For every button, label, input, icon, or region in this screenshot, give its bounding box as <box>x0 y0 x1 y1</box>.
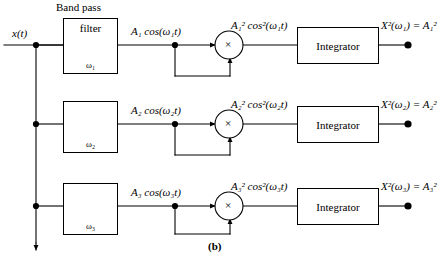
integrator-box-2[interactable]: Integrator <box>297 106 379 143</box>
output3-label: X²(ω₃) = A₃² <box>381 181 437 192</box>
bandpass-filter-box-3[interactable]: ω₃ <box>63 183 118 235</box>
multiplier-1-symbol: × <box>225 39 231 50</box>
integrator-box-3[interactable]: Integrator <box>297 188 379 225</box>
filter3-output-label: A₃ cos(ω₃t) <box>131 187 181 198</box>
tap-dot-row3 <box>172 203 178 209</box>
bandpass-filter-box-2[interactable]: ω₂ <box>63 101 118 153</box>
output-terminal-3 <box>404 202 411 209</box>
junction-dot-row3 <box>33 203 39 209</box>
multiplier-3-symbol: × <box>225 200 231 211</box>
junction-dot-row1 <box>33 42 39 48</box>
junction-dot-row2 <box>33 121 39 127</box>
filter1-output-label: A₁ cos(ω₁t) <box>131 26 181 37</box>
filter3-omega-label: ω₃ <box>64 221 117 231</box>
product2-label: A₂² cos²(ω₂t) <box>231 99 288 110</box>
integrator1-label: Integrator <box>298 40 378 52</box>
tap-dot-row2 <box>172 121 178 127</box>
product3-label: A₃² cos²(ω₃t) <box>231 181 288 192</box>
filter2-output-label: A₂ cos(ω₂t) <box>131 105 181 116</box>
filter-word-label: filter <box>64 22 117 34</box>
figure-caption: (b) <box>208 240 221 252</box>
bandpass-filter-box-1[interactable]: filter ω₁ <box>63 18 118 74</box>
integrator2-label: Integrator <box>298 119 378 131</box>
product1-label: A₁² cos²(ω₁t) <box>231 20 288 31</box>
filter2-omega-label: ω₂ <box>64 139 117 149</box>
tap-dot-row1 <box>172 42 178 48</box>
output1-label: X²(ω₁) = A₁² <box>381 20 437 31</box>
bandpass-header-label: Band pass <box>56 2 101 13</box>
filter1-omega-label: ω₁ <box>64 60 117 70</box>
input-signal-label: x(t) <box>12 28 27 39</box>
output-terminal-2 <box>404 120 411 127</box>
multiplier-2-symbol: × <box>225 118 231 129</box>
output2-label: X²(ω₂) = A₂² <box>381 99 437 110</box>
integrator3-label: Integrator <box>298 201 378 213</box>
integrator-box-1[interactable]: Integrator <box>297 27 379 64</box>
output-terminal-1 <box>404 41 411 48</box>
